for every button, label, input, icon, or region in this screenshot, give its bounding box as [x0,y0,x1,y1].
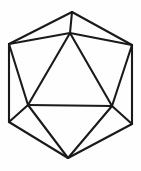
icosahedron-figure [0,0,141,171]
edge-triangle-base [28,105,112,106]
